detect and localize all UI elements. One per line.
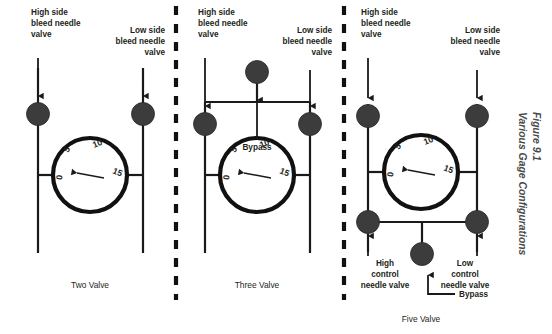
label-low-side-line3: valve	[145, 48, 166, 57]
figure-caption: Figure 9.1 Various Gage Configurations	[517, 112, 542, 256]
label-low-side-line2: bleed needle	[115, 37, 165, 46]
panel-three-valve: 5 10 15 0 High side bleed needle valve L…	[194, 8, 333, 290]
label-low-side-line3: valve	[312, 48, 333, 57]
label-high-side-line1: High side	[198, 8, 235, 17]
valve-low-side-bleed-needle[interactable]	[299, 113, 322, 136]
panel-five-valve: 5 10 15 0 High side bleed needle valve L…	[357, 8, 501, 324]
label-high-side-line1: High side	[31, 8, 68, 17]
label-low-side-line2: bleed needle	[450, 37, 500, 46]
label-bypass: Bypass	[242, 143, 272, 152]
label-high-side-line3: valve	[361, 30, 382, 39]
figure-caption-number: Figure 9.1	[531, 112, 542, 161]
valve-low-side-bleed-needle[interactable]	[132, 103, 155, 126]
valve-high-side-bleed-needle[interactable]	[27, 103, 50, 126]
label-high-side-line3: valve	[31, 30, 52, 39]
label-bypass: Bypass	[459, 290, 489, 299]
label-low-side-line2: bleed needle	[282, 37, 332, 46]
label-high-control-line3: needle valve	[361, 281, 410, 290]
label-high-side-line3: valve	[198, 30, 219, 39]
label-high-side-line2: bleed needle	[198, 19, 248, 28]
valve-high-control-needle[interactable]	[357, 211, 380, 234]
panel-two-valve: 5 10 15 0 High side bleed needle valve L…	[27, 8, 166, 290]
valve-bypass[interactable]	[246, 61, 269, 84]
label-low-side-line1: Low side	[297, 26, 332, 35]
valve-high-side-bleed-needle[interactable]	[357, 105, 380, 128]
panel-caption-three-valve: Three Valve	[235, 280, 280, 290]
valve-bypass[interactable]	[411, 243, 434, 266]
gage-configurations-diagram: 5 10 15 0 High side bleed needle valve L…	[0, 0, 552, 334]
label-high-side-line2: bleed needle	[361, 19, 411, 28]
valve-low-side-bleed-needle[interactable]	[466, 105, 489, 128]
panel-caption-two-valve: Two Valve	[71, 280, 109, 290]
valve-high-side-bleed-needle[interactable]	[194, 113, 217, 136]
valve-low-control-needle[interactable]	[466, 211, 489, 234]
label-low-control-line1: Low	[457, 259, 474, 268]
figure-caption-title: Various Gage Configurations	[517, 112, 528, 256]
label-low-control-line2: control	[451, 270, 479, 279]
label-high-control-line2: control	[371, 270, 399, 279]
label-high-side-line2: bleed needle	[31, 19, 81, 28]
label-low-side-line1: Low side	[465, 26, 500, 35]
label-low-side-line1: Low side	[130, 26, 165, 35]
label-low-control-line3: needle valve	[441, 281, 490, 290]
figure-container: 5 10 15 0 High side bleed needle valve L…	[0, 0, 552, 334]
label-high-side-line1: High side	[361, 8, 398, 17]
label-low-side-line3: valve	[480, 48, 501, 57]
label-high-control-line1: High	[376, 259, 394, 268]
panel-caption-five-valve: Five Valve	[402, 314, 441, 324]
